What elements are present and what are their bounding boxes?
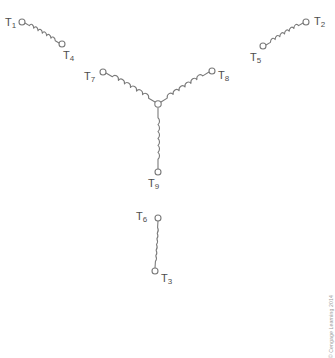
- terminal-node-t2[interactable]: [303, 19, 309, 25]
- terminal-label-subscript: 1: [12, 21, 16, 30]
- terminal-label-t5: T5: [250, 52, 261, 63]
- terminal-label-subscript: 3: [168, 277, 172, 286]
- terminal-label-t9: T9: [148, 178, 159, 189]
- terminal-label-subscript: 7: [91, 75, 95, 84]
- terminal-label-subscript: 9: [155, 182, 159, 191]
- terminal-label-subscript: 6: [143, 215, 147, 224]
- terminal-label-subscript: 2: [321, 20, 325, 29]
- terminal-label-t7: T7: [84, 71, 95, 82]
- coil-center-t9: [158, 108, 159, 169]
- terminal-label-base: T: [136, 210, 143, 222]
- terminal-node-t7[interactable]: [100, 69, 106, 75]
- terminal-node-t9[interactable]: [155, 169, 161, 175]
- terminal-node-t1[interactable]: [19, 19, 25, 25]
- wye-center-node[interactable]: [155, 101, 161, 107]
- coil-t1-t4: [25, 23, 59, 43]
- coil-t5-t2: [266, 23, 303, 45]
- terminal-label-base: T: [218, 69, 225, 81]
- coil-t6-t3: [155, 221, 158, 268]
- terminal-node-t3[interactable]: [152, 268, 158, 274]
- coil-center-t8: [161, 72, 209, 102]
- terminal-label-base: T: [250, 51, 257, 63]
- terminal-label-subscript: 4: [70, 54, 74, 63]
- terminal-label-t4: T4: [63, 50, 74, 61]
- terminal-label-base: T: [5, 16, 12, 28]
- terminal-label-t1: T1: [5, 17, 16, 28]
- copyright-credit: © Cengage Learning 2014: [328, 295, 334, 358]
- terminal-node-t5[interactable]: [260, 43, 266, 49]
- terminal-label-base: T: [314, 15, 321, 27]
- terminal-label-base: T: [63, 49, 70, 61]
- terminal-node-t4[interactable]: [59, 41, 65, 47]
- terminal-label-subscript: 5: [257, 56, 261, 65]
- terminal-label-base: T: [84, 70, 91, 82]
- terminal-node-t8[interactable]: [209, 68, 215, 74]
- terminal-label-base: T: [161, 272, 168, 284]
- terminal-label-t2: T2: [314, 16, 325, 27]
- terminal-label-base: T: [148, 177, 155, 189]
- terminal-node-t6[interactable]: [155, 215, 161, 221]
- terminal-label-t3: T3: [161, 273, 172, 284]
- terminal-label-t8: T8: [218, 70, 229, 81]
- terminal-label-t6: T6: [136, 211, 147, 222]
- coil-t7-center: [106, 73, 155, 102]
- terminal-label-subscript: 8: [225, 74, 229, 83]
